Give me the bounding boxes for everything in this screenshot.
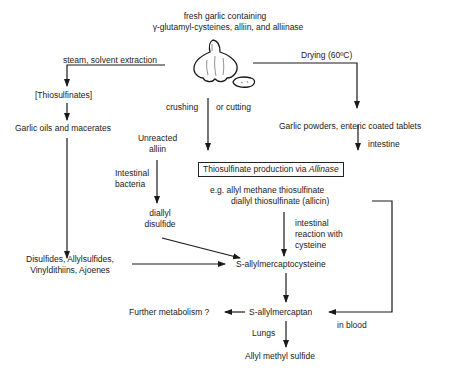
- node-garlic-powders: Garlic powders, enteric coated tablets: [279, 121, 421, 132]
- node-eg-line-2: diallyl thiosulfinate (allicin): [231, 196, 329, 207]
- source-line-2: γ-glutamyl-cysteines, alliin, and alliin…: [128, 22, 328, 33]
- edge-cutting-label: or cutting: [216, 102, 251, 113]
- node-unreacted-line-2: alliin: [130, 144, 185, 155]
- edge-reaction-line-3: cysteine: [295, 240, 326, 251]
- edge-bacteria-line-2: bacteria: [115, 179, 145, 190]
- edge-reaction-line-1: intestinal: [295, 218, 329, 229]
- source-line-1: fresh garlic containing: [160, 11, 290, 22]
- node-unreacted-line-1: Unreacted: [130, 133, 185, 144]
- node-thiosulfinate-production: Thiosulfinate production via Allinase: [198, 162, 344, 177]
- node-garlic-oils: Garlic oils and macerates: [15, 123, 111, 134]
- node-disulfides-line-1: Disulfides, Allylsulfides,: [10, 254, 130, 265]
- edge-lungs-label: Lungs: [252, 328, 275, 339]
- node-disulfides-line-2: Vinyldithiins, Ajoenes: [10, 265, 130, 276]
- node-allyl-methyl-sulfide: Allyl methyl sulfide: [245, 351, 315, 362]
- node-eg-line-1: e.g. allyl methane thiosulfinate: [210, 185, 324, 196]
- edge-steam-label: steam, solvent extraction: [63, 55, 157, 66]
- edge-intestine-label: intestine: [368, 139, 400, 150]
- node-s-allylmercaptan: S-allylmercaptan: [249, 307, 312, 318]
- node-further-metabolism: Further metabolism ?: [129, 307, 209, 318]
- production-label: Thiosulfinate production via: [203, 164, 309, 174]
- edge-bacteria-line-1: Intestinal: [115, 168, 149, 179]
- edge-crushing-label: crushing: [166, 102, 198, 113]
- node-diallyl-line-1: diallyl: [135, 208, 185, 219]
- node-diallyl-line-2: disulfide: [135, 219, 185, 230]
- production-enzyme: Allinase: [309, 164, 339, 174]
- edge-reaction-line-2: reaction with: [295, 229, 343, 240]
- edge-drying-label: Drying (60ºC): [301, 50, 352, 61]
- garlic-bulb-icon: [185, 38, 260, 90]
- node-thiosulfinates: [Thiosulfinates]: [35, 90, 92, 101]
- edge-in-blood-label: in blood: [337, 320, 367, 331]
- node-s-allylmercaptocysteine: S-allylmercaptocysteine: [236, 259, 326, 270]
